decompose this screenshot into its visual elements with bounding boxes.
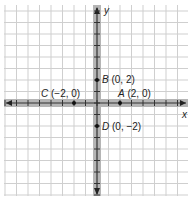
label-point-a: A (2, 0) bbox=[117, 88, 151, 99]
x-axis-label: x bbox=[181, 109, 188, 120]
label-point-d: D (0, −2) bbox=[102, 121, 141, 132]
label-point-c: C (−2, 0) bbox=[41, 88, 80, 99]
coordinate-plane: y x A (2, 0) B (0, 2) C (−2, 0) D (0, −2… bbox=[0, 0, 192, 207]
label-point-b: B (0, 2) bbox=[102, 74, 135, 85]
y-axis-label: y bbox=[103, 5, 110, 16]
point-b bbox=[95, 78, 99, 82]
point-a bbox=[118, 101, 122, 105]
point-c bbox=[72, 101, 76, 105]
point-d bbox=[95, 124, 99, 128]
